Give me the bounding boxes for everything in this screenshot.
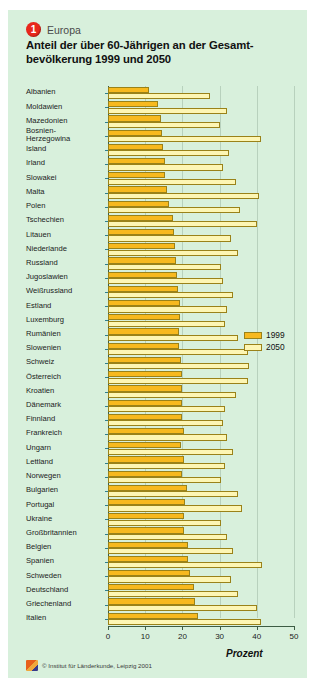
category-label: Slowenien: [26, 344, 104, 352]
category-label: Ungarn: [26, 444, 104, 452]
category-label: Tschechien: [26, 216, 104, 224]
bar-1999: [108, 201, 169, 207]
bar-2050: [108, 321, 225, 327]
category-label: Portugal: [26, 501, 104, 509]
chart-header: 1 Europa Anteil der über 60-Jährigen an …: [26, 22, 296, 66]
institute-logo-icon: [26, 660, 38, 671]
category-label: Luxemburg: [26, 316, 104, 324]
category-label: Malta: [26, 188, 104, 196]
x-tick-label-0: 0: [106, 632, 110, 641]
bar-1999: [108, 442, 181, 448]
bar-2050: [108, 93, 210, 99]
x-tick-50: [294, 626, 295, 630]
category-label: Moldawien: [26, 103, 104, 111]
bar-1999: [108, 87, 149, 93]
category-label: Litauen: [26, 231, 104, 239]
chart-page: 1 Europa Anteil der über 60-Jährigen an …: [0, 0, 315, 686]
category-label: Österreich: [26, 373, 104, 381]
bar-1999: [108, 314, 180, 320]
bar-1999: [108, 115, 161, 121]
chart-card: 1 Europa Anteil der über 60-Jährigen an …: [8, 10, 307, 678]
category-label: Slowakei: [26, 174, 104, 182]
category-label: Schweden: [26, 572, 104, 580]
x-tick-label-40: 40: [252, 632, 261, 641]
x-tick-20: [182, 626, 183, 630]
region-label: Europa: [47, 24, 81, 36]
category-label: Estland: [26, 302, 104, 310]
x-tick-label-10: 10: [141, 632, 150, 641]
bar-1999: [108, 272, 177, 278]
bar-1999: [108, 598, 195, 604]
bar-1999: [108, 414, 182, 420]
category-label: Spanien: [26, 557, 104, 565]
legend-item-2050: 2050: [244, 342, 285, 352]
bar-2050: [108, 250, 238, 256]
category-label: Kroatien: [26, 387, 104, 395]
bar-1999: [108, 286, 178, 292]
category-label: Bosnien- Herzegowina: [26, 127, 104, 144]
bar-2050: [108, 392, 236, 398]
category-label: Finnland: [26, 415, 104, 423]
bar-2050: [108, 562, 262, 568]
bar-2050: [108, 122, 220, 128]
bar-2050: [108, 136, 261, 142]
bar-1999: [108, 400, 182, 406]
legend-label-1999: 1999: [266, 330, 285, 340]
bar-2050: [108, 335, 238, 341]
category-label: Mazedonien: [26, 117, 104, 125]
chart-footer: © Institut für Länderkunde, Leipzig 2001: [26, 660, 152, 671]
category-label: Bulgarien: [26, 486, 104, 494]
bar-2050: [108, 278, 223, 284]
bar-2050: [108, 235, 231, 241]
bar-1999: [108, 570, 190, 576]
legend-item-1999: 1999: [244, 330, 285, 340]
category-label: Großbritannien: [26, 529, 104, 537]
category-label: Schweiz: [26, 358, 104, 366]
bar-1999: [108, 257, 176, 263]
category-label: Frankreich: [26, 429, 104, 437]
bar-2050: [108, 108, 227, 114]
bar-1999: [108, 101, 158, 107]
bar-1999: [108, 144, 163, 150]
bar-1999: [108, 357, 181, 363]
bar-1999: [108, 542, 188, 548]
bar-2050: [108, 491, 238, 497]
bar-2050: [108, 207, 240, 213]
bar-1999: [108, 158, 165, 164]
x-tick-30: [220, 626, 221, 630]
category-label: Polen: [26, 202, 104, 210]
page-title: Anteil der über 60-Jährigen an der Gesam…: [26, 39, 296, 66]
x-axis-line: [108, 626, 294, 627]
bar-2050: [108, 505, 242, 511]
bar-2050: [108, 406, 225, 412]
bar-2050: [108, 449, 233, 455]
bar-2050: [108, 349, 248, 355]
bar-1999: [108, 215, 173, 221]
bar-2050: [108, 378, 248, 384]
category-label: Rumänien: [26, 330, 104, 338]
bar-1999: [108, 130, 162, 136]
legend-swatch-1999: [244, 332, 262, 339]
bar-1999: [108, 186, 167, 192]
category-label: Niederlande: [26, 245, 104, 253]
copyright-text: © Institut für Länderkunde, Leipzig 2001: [42, 662, 152, 669]
category-label: Russland: [26, 259, 104, 267]
category-label: Italien: [26, 614, 104, 622]
bar-2050: [108, 179, 236, 185]
bar-1999: [108, 527, 184, 533]
category-labels: AlbanienMoldawienMazedonienBosnien- Herz…: [26, 86, 104, 626]
bar-1999: [108, 471, 182, 477]
bar-1999: [108, 513, 184, 519]
category-label: Island: [26, 145, 104, 153]
bar-1999: [108, 499, 185, 505]
x-axis-title: Prozent: [226, 648, 263, 659]
x-tick-10: [145, 626, 146, 630]
category-label: Norwegen: [26, 472, 104, 480]
bar-1999: [108, 243, 175, 249]
category-label: Jugoslawien: [26, 273, 104, 281]
bar-2050: [108, 363, 249, 369]
bar-1999: [108, 485, 187, 491]
bar-1999: [108, 343, 179, 349]
gridline-50: [294, 86, 295, 618]
bar-1999: [108, 371, 182, 377]
